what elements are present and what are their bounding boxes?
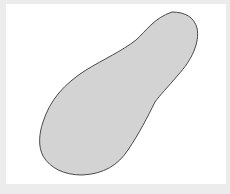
insole-shape bbox=[0, 0, 230, 194]
insole-outline bbox=[40, 12, 198, 175]
image-frame bbox=[0, 0, 230, 194]
